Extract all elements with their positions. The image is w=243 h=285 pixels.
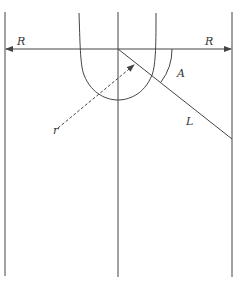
angle-arc-A	[161, 49, 172, 82]
dashed-radius-arrow-r	[58, 65, 134, 128]
label-radius-right: R	[204, 35, 213, 48]
label-length-L: L	[185, 115, 193, 128]
diagram-canvas: R R A L r	[0, 0, 243, 285]
diagonal-line-L	[118, 49, 232, 139]
label-small-radius-r: r	[53, 124, 59, 137]
label-radius-left: R	[16, 35, 25, 48]
label-angle-A: A	[176, 67, 185, 80]
